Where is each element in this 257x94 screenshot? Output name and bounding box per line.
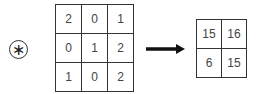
- right-arrow-icon: [146, 44, 186, 54]
- matrix-cell: 0: [56, 34, 82, 63]
- operator-symbol: ∗: [12, 42, 25, 58]
- matrix-cell: 15: [222, 49, 247, 78]
- convolution-operator-icon: ∗: [9, 40, 28, 59]
- matrix-row: 2 0 1: [56, 5, 134, 34]
- kernel-matrix: 2 0 1 0 1 2 1 0 2: [55, 4, 134, 92]
- matrix-row: 6 15: [197, 49, 247, 78]
- matrix-row: 1 0 2: [56, 63, 134, 92]
- matrix-cell: 2: [56, 5, 82, 34]
- matrix-cell: 0: [82, 63, 108, 92]
- matrix-cell: 6: [197, 49, 222, 78]
- matrix-cell: 1: [56, 63, 82, 92]
- matrix-cell: 2: [108, 34, 134, 63]
- matrix-cell: 2: [108, 63, 134, 92]
- output-matrix: 15 16 6 15: [196, 19, 247, 78]
- matrix-cell: 0: [82, 5, 108, 34]
- matrix-cell: 15: [197, 20, 222, 49]
- matrix-row: 15 16: [197, 20, 247, 49]
- matrix-row: 0 1 2: [56, 34, 134, 63]
- matrix-cell: 1: [108, 5, 134, 34]
- matrix-cell: 16: [222, 20, 247, 49]
- matrix-cell: 1: [82, 34, 108, 63]
